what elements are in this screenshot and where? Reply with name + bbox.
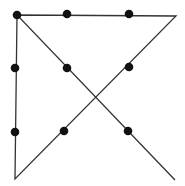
diagram-svg — [0, 0, 185, 186]
dot — [125, 10, 134, 19]
dot — [63, 10, 72, 19]
dot — [63, 64, 72, 73]
dot — [124, 127, 133, 136]
dot — [11, 64, 20, 73]
dot — [60, 127, 69, 136]
dot — [11, 128, 20, 137]
dot — [125, 63, 134, 72]
dot — [13, 11, 22, 20]
nine-dot-diagram — [0, 0, 185, 186]
four-line-path — [15, 15, 176, 180]
